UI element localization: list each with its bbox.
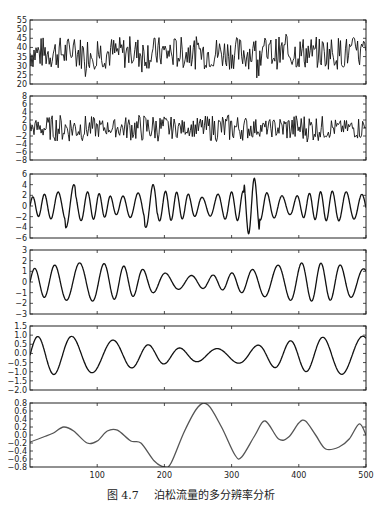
y-tick-label: −8 — [15, 156, 27, 165]
y-tick-label: −2 — [15, 213, 27, 222]
y-tick-label: 25 — [17, 71, 27, 80]
multi-resolution-figure: 2025303540455055−8−6−4−202468−6−4−20246−… — [0, 0, 382, 480]
y-tick-label: −0.5 — [8, 359, 27, 368]
y-tick-label: 0.8 — [14, 399, 27, 408]
y-tick-label: 50 — [17, 25, 27, 34]
y-tick-label: 0.4 — [14, 415, 27, 424]
x-tick-label: 400 — [291, 471, 306, 480]
y-tick-label: 4 — [22, 108, 27, 117]
y-tick-label: −2.0 — [8, 386, 27, 395]
x-tick-label: 500 — [358, 471, 373, 480]
panel-detail-level-4: −2.0−1.5−1.0−0.50.00.51.01.5 — [8, 322, 366, 395]
y-tick-label: 40 — [17, 43, 27, 52]
y-tick-label: 6 — [22, 170, 27, 179]
axes-frame — [30, 326, 366, 390]
y-tick-label: 0.0 — [14, 431, 27, 440]
y-tick-label: −1.5 — [8, 377, 27, 386]
series-line — [30, 115, 366, 142]
y-tick-label: 20 — [17, 80, 27, 89]
y-tick-label: −0.2 — [8, 439, 27, 448]
y-tick-label: 0.5 — [14, 340, 27, 349]
y-tick-label: 0 — [22, 278, 27, 287]
series-line — [30, 263, 366, 301]
y-tick-label: 30 — [17, 62, 27, 71]
y-tick-label: 35 — [17, 53, 27, 62]
y-tick-label: 0.6 — [14, 407, 27, 416]
y-tick-label: −1.0 — [8, 368, 27, 377]
y-tick-label: −4 — [15, 140, 27, 149]
y-tick-label: 2 — [22, 191, 27, 200]
y-tick-label: −1 — [15, 289, 27, 298]
panel-detail-level-1: −8−6−4−202468 — [15, 92, 366, 165]
y-tick-label: 0.0 — [14, 349, 27, 358]
series-line — [30, 336, 366, 374]
y-tick-label: −0.8 — [8, 463, 27, 472]
y-tick-label: −6 — [15, 234, 27, 243]
y-tick-label: 2 — [22, 116, 27, 125]
y-tick-label: −0.6 — [8, 455, 27, 464]
y-tick-label: 45 — [17, 34, 27, 43]
y-tick-label: −2 — [15, 299, 27, 308]
y-tick-label: 55 — [17, 16, 27, 25]
y-tick-label: 0.2 — [14, 423, 27, 432]
y-tick-label: 1.0 — [14, 331, 27, 340]
x-tick-label: 100 — [90, 471, 105, 480]
y-tick-label: −0.4 — [8, 447, 27, 456]
y-tick-label: −2 — [15, 132, 27, 141]
x-tick-label: 200 — [157, 471, 172, 480]
figure-number: 图 4.7 — [107, 489, 139, 502]
y-tick-label: 4 — [22, 181, 27, 190]
y-tick-label: 1 — [22, 267, 27, 276]
panel-approximation: −0.8−0.6−0.4−0.20.00.20.40.60.8 — [8, 399, 366, 472]
panel-detail-level-3: −3−2−10123 — [15, 246, 366, 319]
y-tick-label: 2 — [22, 257, 27, 266]
y-tick-label: 3 — [22, 246, 27, 255]
panel-original-poisson-traffic: 2025303540455055 — [17, 16, 366, 89]
y-tick-label: 0 — [22, 124, 27, 133]
figure-title: 泊松流量的多分辨率分析 — [154, 489, 275, 502]
figure-caption: 图 4.7 泊松流量的多分辨率分析 — [0, 486, 382, 502]
y-tick-label: −3 — [15, 310, 27, 319]
y-tick-label: 1.5 — [14, 322, 27, 331]
panel-detail-level-2: −6−4−20246 — [15, 170, 366, 243]
y-tick-label: −4 — [15, 223, 27, 232]
series-line — [30, 403, 366, 467]
y-tick-label: −6 — [15, 148, 27, 157]
y-tick-label: 0 — [22, 202, 27, 211]
y-tick-label: 8 — [22, 92, 27, 101]
series-line — [30, 34, 366, 78]
series-line — [30, 178, 366, 233]
y-tick-label: 6 — [22, 100, 27, 109]
x-tick-label: 300 — [224, 471, 239, 480]
